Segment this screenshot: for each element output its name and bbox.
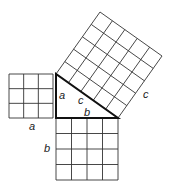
square-b-grid	[56, 118, 118, 180]
pythagorean-diagram: a a c b b c	[0, 0, 177, 189]
label-b-left: b	[44, 142, 50, 154]
label-b-inside: b	[84, 106, 90, 118]
label-a-inside: a	[59, 89, 65, 101]
square-a-grid	[9, 74, 53, 118]
label-a-below: a	[29, 120, 35, 132]
label-c-outside: c	[143, 88, 149, 100]
label-c-inside: c	[78, 94, 84, 106]
